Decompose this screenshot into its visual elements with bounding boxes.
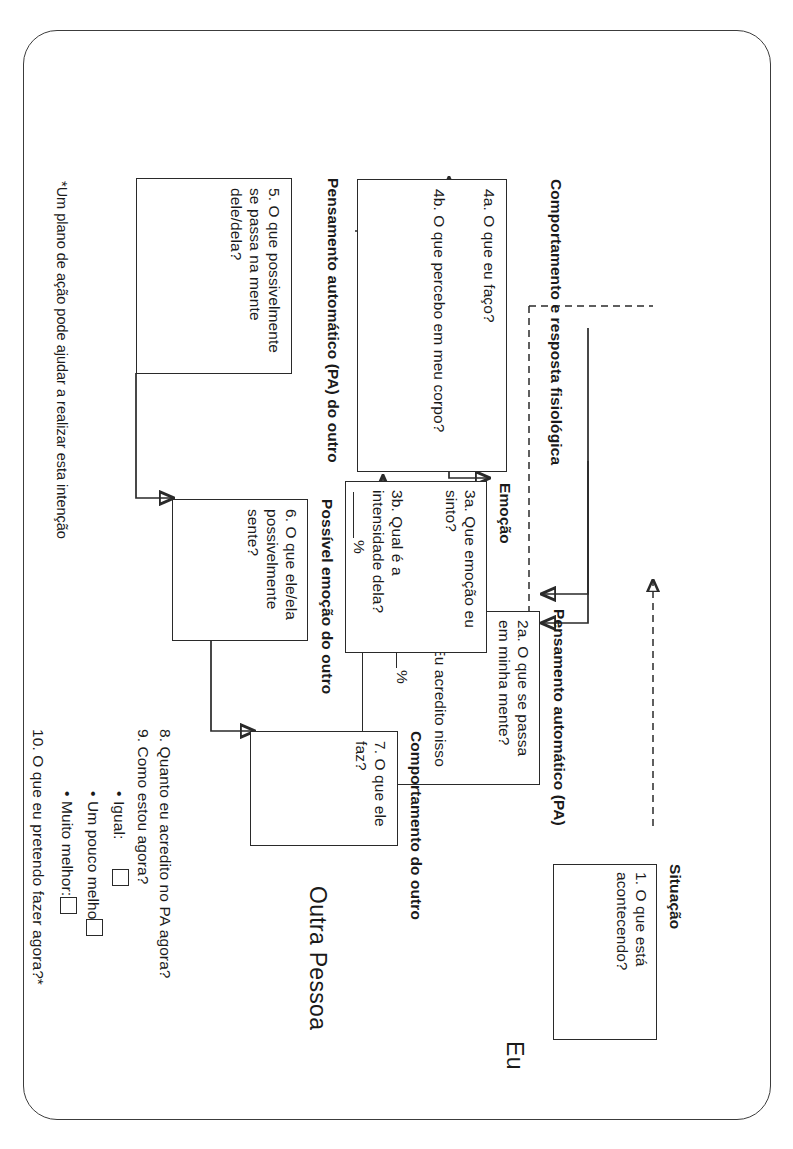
comportamento-item-4a[interactable]: 4a. O que eu faço? bbox=[479, 189, 498, 464]
option-um-pouco-melhor-label[interactable]: • Um pouco melhor: bbox=[82, 791, 103, 929]
emocao-item-3b-label: 3b. Qual é a intensidade dela? bbox=[370, 490, 406, 613]
footnote: *Um plano de ação pode ajudar a realizar… bbox=[53, 181, 70, 539]
label-eu: Eu bbox=[502, 1041, 527, 1070]
pensamento-automatico-item-2a[interactable]: 2a. O que se passa em minha mente? bbox=[494, 620, 532, 776]
option-um-pouco-melhor-checkbox[interactable] bbox=[86, 919, 103, 936]
emocao-percent: % bbox=[351, 540, 368, 554]
situacao-item-1[interactable]: 1. O que está acontecendo? bbox=[612, 872, 650, 1032]
emocao-header: Emoção bbox=[495, 483, 514, 643]
question-9[interactable]: 9. Como estou agora? bbox=[132, 729, 153, 1149]
question-10[interactable]: 10. O que eu pretendo fazer agora?* bbox=[27, 729, 48, 1149]
emocao-item-3b[interactable]: 3b. Qual é a intensidade dela?% bbox=[349, 490, 425, 650]
situacao-header: Situação bbox=[665, 864, 684, 1064]
comportamento-item-4b[interactable]: 4b. O que percebo em meu corpo? bbox=[429, 189, 448, 464]
emocao-blank[interactable] bbox=[353, 492, 367, 538]
emocao-do-outro-item-6[interactable]: 6. O que ele/ela possivelmente sente? bbox=[243, 509, 300, 637]
worksheet-stage: Situação 1. O que está acontecendo? Pens… bbox=[0, 0, 793, 1149]
option-igual-checkbox[interactable] bbox=[112, 869, 129, 886]
label-outra-pessoa: Outra Pessoa bbox=[305, 886, 330, 1030]
pensamento-automatico-header: Pensamento automático (PA) bbox=[549, 609, 568, 869]
option-muito-melhor-label[interactable]: • Muito melhor: bbox=[56, 791, 77, 896]
pa-do-outro-header: Pensamento automático (PA) do outro bbox=[323, 178, 342, 498]
pensamento-automatico-percent: % bbox=[394, 670, 411, 684]
comportamento-do-outro-item-7[interactable]: 7. O que ele faz? bbox=[351, 741, 389, 846]
option-igual-label[interactable]: • Igual: bbox=[108, 791, 129, 839]
comportamento-header: Comportamento e resposta fisiológica bbox=[546, 179, 565, 479]
question-8[interactable]: 8. Quanto eu acredito no PA agora? bbox=[154, 729, 175, 1149]
option-muito-melhor-checkbox[interactable] bbox=[60, 897, 77, 914]
worksheet-sheet: Situação 1. O que está acontecendo? Pens… bbox=[23, 30, 771, 1120]
emocao-do-outro-header: Possível emoção do outro bbox=[317, 499, 336, 739]
pa-do-outro-item-5[interactable]: 5. O que possivelmente se passa na mente… bbox=[226, 188, 283, 368]
emocao-item-3a[interactable]: 3a. Que emoção eu sinto? bbox=[441, 490, 479, 646]
comportamento-do-outro-header: Comportamento do outro bbox=[406, 731, 425, 981]
